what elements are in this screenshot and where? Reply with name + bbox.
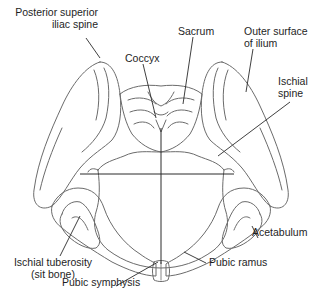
left-ilium (34, 62, 121, 208)
label-posterior-superior-iliac-spine: Posterior superior iliac spine (6, 6, 98, 30)
label-outer-surface-of-ilium: Outer surface of ilium (244, 25, 308, 49)
pelvic-diameter-lines (80, 128, 234, 264)
label-pubic-symphysis: Pubic symphysis (62, 276, 140, 288)
label-acetabulum: Acetabulum (252, 226, 307, 238)
label-coccyx: Coccyx (125, 52, 159, 64)
pelvis-diagram: Posterior superior iliac spine Coccyx Sa… (0, 0, 322, 302)
label-ischial-spine: Ischial spine (278, 75, 308, 99)
label-sacrum: Sacrum (178, 25, 214, 37)
right-ilium (201, 62, 288, 208)
label-pubic-ramus: Pubic ramus (209, 256, 267, 268)
